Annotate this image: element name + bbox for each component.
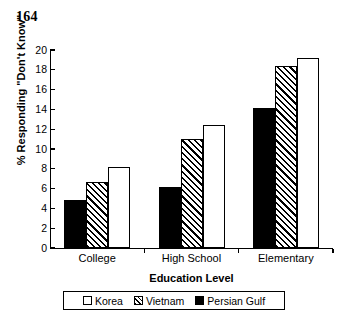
y-axis-tick-label: 6 (7, 183, 47, 194)
legend-label: Vietnam (146, 295, 184, 307)
bar (86, 182, 108, 248)
y-axis-tick-label: 18 (7, 64, 47, 75)
bar (108, 167, 130, 248)
chart-legend: KoreaVietnamPersian Gulf (63, 291, 285, 310)
bar (181, 139, 203, 248)
y-axis-tick-label: 8 (7, 163, 47, 174)
x-axis-category-label: Elementary (239, 252, 333, 264)
plot-area (50, 50, 333, 248)
bar (203, 125, 225, 248)
legend-swatch-icon (195, 296, 204, 305)
bar (275, 66, 297, 248)
y-axis-tick-label: 16 (7, 84, 47, 95)
y-axis-tick-label: 20 (7, 45, 47, 56)
y-axis-tick-label: 4 (7, 203, 47, 214)
y-axis-tick-label: 14 (7, 104, 47, 115)
y-axis-tick-label: 10 (7, 144, 47, 155)
y-axis-tick-label: 2 (7, 223, 47, 234)
y-axis-title: % Responding "Don't Know" (15, 0, 27, 185)
legend-swatch-icon (134, 296, 143, 305)
legend-label: Persian Gulf (207, 295, 265, 307)
x-axis-title: Education Level (50, 272, 333, 284)
legend-item: Korea (83, 295, 123, 307)
bar (64, 200, 86, 248)
x-axis-category-label: High School (144, 252, 238, 264)
x-axis-category-label: College (50, 252, 144, 264)
legend-item: Vietnam (134, 295, 184, 307)
bar-chart-figure: 20181614121086420 CollegeHigh SchoolElem… (0, 0, 346, 317)
legend-swatch-icon (83, 296, 92, 305)
x-axis-line (50, 248, 333, 249)
bar (253, 108, 275, 248)
legend-label: Korea (95, 295, 123, 307)
bar (159, 187, 181, 248)
y-axis-tick-label: 0 (7, 243, 47, 254)
bar (297, 58, 319, 248)
legend-item: Persian Gulf (195, 295, 265, 307)
y-axis-tick-label: 12 (7, 124, 47, 135)
